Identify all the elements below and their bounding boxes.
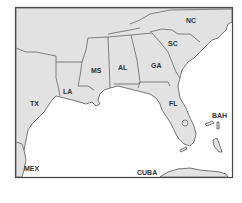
label-fl: FL (169, 100, 178, 107)
label-nc: NC (186, 17, 196, 24)
southeast-us-map: NC SC GA AL MS LA TX FL BAH MEX CUBA (0, 0, 242, 203)
label-mex: MEX (24, 165, 40, 172)
label-cuba: CUBA (137, 169, 157, 176)
label-bah: BAH (212, 112, 227, 119)
bahamas-island (217, 122, 219, 129)
label-ga: GA (151, 62, 162, 69)
label-ms: MS (91, 67, 102, 74)
label-la: LA (63, 88, 72, 95)
label-al: AL (118, 64, 128, 71)
label-tx: TX (30, 100, 39, 107)
label-sc: SC (168, 40, 178, 47)
